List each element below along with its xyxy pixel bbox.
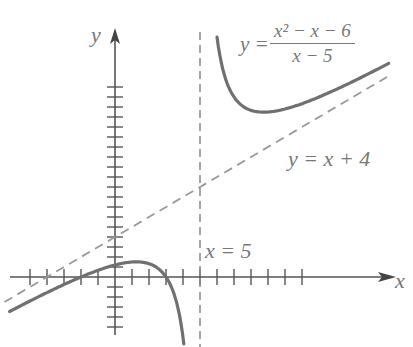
function-left-branch bbox=[10, 262, 184, 344]
function-denominator: x − 5 bbox=[270, 44, 355, 67]
oblique-asymptote-label: y = x + 4 bbox=[288, 146, 370, 172]
x-axis-label: x bbox=[395, 268, 405, 294]
function-numerator: x² − x − 6 bbox=[270, 20, 355, 44]
vertical-asymptote-label: x = 5 bbox=[205, 238, 252, 264]
oblique-asymptote-line bbox=[5, 77, 388, 302]
chart: y x y = x² − x − 6 x − 5 y = x + 4 x = 5 bbox=[0, 0, 413, 347]
y-axis-label: y bbox=[91, 22, 101, 48]
function-label-fraction: x² − x − 6 x − 5 bbox=[270, 20, 355, 67]
axes bbox=[10, 28, 396, 335]
curves bbox=[5, 32, 389, 347]
function-label-lhs: y = bbox=[240, 32, 269, 57]
